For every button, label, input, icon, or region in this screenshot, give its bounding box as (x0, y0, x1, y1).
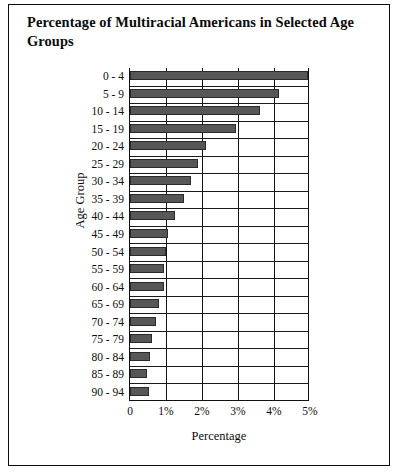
bar-row: 15 - 19 (130, 121, 308, 139)
y-tick-label: 0 - 4 (103, 71, 124, 82)
y-tick-label: 80 - 84 (91, 352, 124, 363)
bar-row: 70 - 74 (130, 313, 308, 331)
row-separator (130, 156, 308, 157)
bar-row: 40 - 44 (130, 208, 308, 226)
y-tick-label: 20 - 24 (91, 141, 124, 152)
bar-row: 0 - 4 (130, 68, 308, 86)
bar (130, 299, 159, 308)
plot-area: 01%2%3%4%5%0 - 45 - 910 - 1415 - 1920 - … (129, 68, 309, 401)
bar (130, 89, 279, 98)
row-separator (130, 243, 308, 244)
bar (130, 71, 308, 80)
row-separator (130, 173, 308, 174)
y-tick-label: 75 - 79 (91, 334, 124, 345)
bar (130, 387, 149, 396)
bar (130, 317, 156, 326)
bar (130, 176, 191, 185)
bar-row: 25 - 29 (130, 156, 308, 174)
y-tick-label: 70 - 74 (91, 317, 124, 328)
bar-row: 85 - 89 (130, 366, 308, 384)
row-separator (130, 208, 308, 209)
bar (130, 247, 166, 256)
row-separator (130, 348, 308, 349)
y-tick-label: 65 - 69 (91, 299, 124, 310)
bar-row: 90 - 94 (130, 383, 308, 401)
row-separator (130, 103, 308, 104)
bar-row: 45 - 49 (130, 226, 308, 244)
bar-row: 75 - 79 (130, 331, 308, 349)
row-separator (130, 278, 308, 279)
y-tick-label: 90 - 94 (91, 387, 124, 398)
bar-row: 65 - 69 (130, 296, 308, 314)
bar (130, 106, 260, 115)
bar-row: 5 - 9 (130, 86, 308, 104)
bar (130, 229, 168, 238)
bar-row: 35 - 39 (130, 191, 308, 209)
row-separator (130, 331, 308, 332)
bar (130, 282, 164, 291)
y-tick-label: 5 - 9 (103, 89, 124, 100)
bar-row: 60 - 64 (130, 278, 308, 296)
row-separator (130, 366, 308, 367)
y-tick-label: 85 - 89 (91, 369, 124, 380)
x-tick-label: 0 (127, 405, 133, 417)
y-tick-label: 15 - 19 (91, 124, 124, 135)
row-separator (130, 226, 308, 227)
row-separator (130, 86, 308, 87)
x-tick-label: 2% (194, 405, 209, 417)
y-tick-label: 55 - 59 (91, 264, 124, 275)
row-separator (130, 191, 308, 192)
bar (130, 159, 198, 168)
bar (130, 264, 164, 273)
x-tick-label: 3% (230, 405, 245, 417)
row-separator (130, 261, 308, 262)
bar (130, 334, 152, 343)
y-tick-label: 10 - 14 (91, 106, 124, 117)
bar (130, 194, 184, 203)
bar-row: 20 - 24 (130, 138, 308, 156)
x-tick-label: 4% (266, 405, 281, 417)
bar (130, 352, 150, 361)
bar-row: 50 - 54 (130, 243, 308, 261)
x-axis-title: Percentage (129, 429, 309, 444)
row-separator (130, 313, 308, 314)
row-separator (130, 121, 308, 122)
bar-row: 30 - 34 (130, 173, 308, 191)
figure-panel: Percentage of Multiracial Americans in S… (8, 4, 390, 466)
bar-row: 80 - 84 (130, 348, 308, 366)
y-tick-label: 30 - 34 (91, 176, 124, 187)
bar-row: 10 - 14 (130, 103, 308, 121)
bar (130, 211, 175, 220)
y-tick-label: 40 - 44 (91, 211, 124, 222)
y-tick-label: 60 - 64 (91, 282, 124, 293)
y-tick-label: 45 - 49 (91, 229, 124, 240)
row-separator (130, 138, 308, 139)
y-tick-label: 25 - 29 (91, 159, 124, 170)
y-tick-label: 35 - 39 (91, 194, 124, 205)
bar (130, 124, 236, 133)
y-axis-title: Age Group (73, 173, 88, 229)
chart-title: Percentage of Multiracial Americans in S… (27, 13, 367, 51)
x-tick-label: 1% (158, 405, 173, 417)
row-separator (130, 296, 308, 297)
bar (130, 141, 206, 150)
bar (130, 369, 147, 378)
bar-row: 55 - 59 (130, 261, 308, 279)
y-tick-label: 50 - 54 (91, 247, 124, 258)
row-separator (130, 383, 308, 384)
x-tick-label: 5% (302, 405, 317, 417)
